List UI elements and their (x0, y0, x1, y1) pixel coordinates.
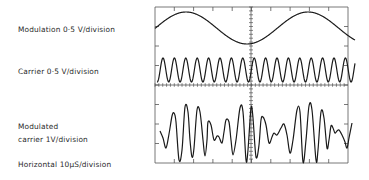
modulated-carrier-trace (160, 103, 352, 163)
oscilloscope-screen (0, 0, 369, 180)
carrier-trace (157, 58, 355, 82)
modulation-trace (155, 12, 355, 44)
